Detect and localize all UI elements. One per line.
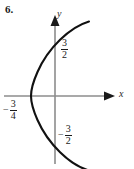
x-axis-label: x [119, 88, 123, 99]
label-bottom-y-intercept-fraction: 3 2 [65, 124, 72, 146]
label-top-y-intercept-denominator: 2 [61, 50, 68, 60]
label-bottom-y-intercept-denominator: 2 [65, 136, 72, 146]
label-bottom-y-intercept-sign: − [58, 130, 65, 140]
label-vertex-denominator: 4 [10, 111, 17, 121]
label-vertex-x-intercept: − 3 4 [3, 99, 17, 121]
label-bottom-y-intercept: − 3 2 [58, 124, 72, 146]
label-vertex-sign: − [3, 105, 10, 115]
figure-container: 6. y x 3 2 − 3 4 − 3 2 [0, 0, 134, 169]
label-vertex-fraction: 3 4 [10, 99, 17, 121]
y-axis-label: y [57, 8, 61, 19]
x-axis-arrow-icon [104, 92, 115, 101]
label-top-y-intercept-numerator: 3 [61, 38, 68, 48]
label-top-y-intercept-fraction: 3 2 [61, 38, 68, 60]
label-vertex-numerator: 3 [10, 99, 17, 109]
label-bottom-y-intercept-numerator: 3 [65, 124, 72, 134]
label-top-y-intercept: 3 2 [60, 38, 68, 60]
